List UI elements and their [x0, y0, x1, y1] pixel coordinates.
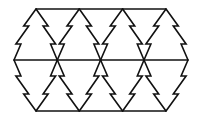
- upper-tree-4-left-edge: [144, 9, 166, 60]
- lower-tree-1-right-edge: [36, 60, 57, 111]
- lower-tree-4-right-edge: [166, 60, 188, 111]
- lower-tree-4-left-edge: [144, 60, 166, 111]
- upper-tree-4-right-edge: [166, 9, 188, 60]
- lower-tree-2-right-edge: [79, 60, 100, 111]
- upper-tree-1-right-edge: [36, 9, 57, 60]
- lower-tree-2-left-edge: [57, 60, 79, 111]
- upper-tree-1-left-edge: [14, 9, 36, 60]
- tree-tessellation-diagram: [0, 0, 199, 120]
- upper-tree-3-right-edge: [123, 9, 144, 60]
- upper-tree-3-left-edge: [101, 9, 123, 60]
- upper-tree-2-right-edge: [79, 9, 100, 60]
- lower-tree-3-left-edge: [101, 60, 123, 111]
- lower-tree-3-right-edge: [123, 60, 144, 111]
- lower-tree-1-left-edge: [14, 60, 36, 111]
- upper-tree-2-left-edge: [57, 9, 79, 60]
